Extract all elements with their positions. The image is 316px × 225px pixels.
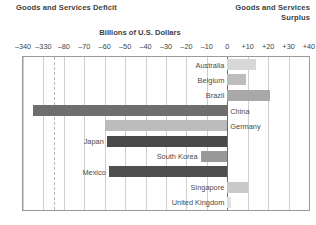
bar-china — [33, 105, 227, 116]
tick-label: –80 — [58, 42, 70, 51]
tick-label: +20 — [262, 42, 274, 51]
plot-area: AustraliaBelgiumBrazilChinaGermanyJapanS… — [22, 56, 310, 211]
chart-row: Australia — [23, 57, 309, 72]
tick-label: –40 — [139, 42, 151, 51]
surplus-header-line1: Goods and Services — [235, 3, 310, 13]
category-label-australia: Australia — [196, 60, 225, 69]
bar-south-korea — [201, 151, 228, 162]
category-label-china: China — [230, 106, 249, 115]
tick-label: –30 — [160, 42, 172, 51]
bar-germany — [105, 120, 228, 131]
chart-row: Japan — [23, 134, 309, 149]
bar-singapore — [227, 182, 247, 193]
category-label-japan: Japan — [84, 137, 104, 146]
tick-label: –20 — [180, 42, 192, 51]
chart-row: Brazil — [23, 88, 309, 103]
surplus-header-line2: Surplus — [235, 13, 310, 23]
chart-row: Mexico — [23, 164, 309, 179]
tick-label: +40 — [303, 42, 315, 51]
bar-australia — [227, 59, 256, 70]
gridline — [309, 57, 310, 210]
x-axis-tick-labels: –340–330–80–70–60–50–40–30–20–100+10+20+… — [0, 42, 316, 54]
tick-label: –330 — [35, 42, 51, 51]
chart-row: South Korea — [23, 149, 309, 164]
tick-label: –10 — [201, 42, 213, 51]
axis-title-text: Billions of U.S. Dollars — [99, 28, 180, 37]
tick-label: –340 — [15, 42, 31, 51]
tick-label: +10 — [242, 42, 254, 51]
bar-brazil — [227, 90, 270, 101]
chart-row: Germany — [23, 118, 309, 133]
chart-row: United Kingdom — [23, 195, 309, 210]
bar-mexico — [109, 166, 227, 177]
category-label-germany: Germany — [230, 121, 260, 130]
axis-title: Billions of U.S. Dollars — [0, 28, 316, 37]
category-label-united-kingdom: United Kingdom — [172, 198, 225, 207]
chart-row: Singapore — [23, 179, 309, 194]
chart-figure: Goods and Services Deficit Goods and Ser… — [0, 0, 316, 225]
category-label-south-korea: South Korea — [157, 152, 198, 161]
category-label-singapore: Singapore — [191, 183, 225, 192]
tick-label: –50 — [119, 42, 131, 51]
surplus-header: Goods and Services Surplus — [235, 3, 310, 23]
bar-japan — [107, 136, 228, 147]
bar-united-kingdom — [227, 197, 231, 208]
chart-row: China — [23, 103, 309, 118]
tick-label: –70 — [78, 42, 90, 51]
deficit-header: Goods and Services Deficit — [16, 3, 117, 12]
tick-label: 0 — [225, 42, 229, 51]
bar-belgium — [227, 74, 245, 85]
category-label-belgium: Belgium — [198, 75, 225, 84]
tick-label: –60 — [99, 42, 111, 51]
chart-row: Belgium — [23, 72, 309, 87]
category-label-mexico: Mexico — [82, 167, 105, 176]
category-label-brazil: Brazil — [206, 91, 224, 100]
tick-label: +30 — [282, 42, 294, 51]
